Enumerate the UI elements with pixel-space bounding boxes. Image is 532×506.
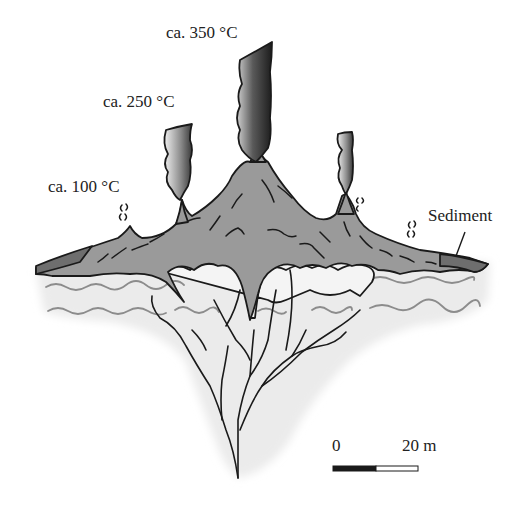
plume-250c xyxy=(164,124,192,200)
label-350c: ca. 350 °C xyxy=(166,23,237,42)
plume-350c xyxy=(237,42,272,162)
sediment-pointer xyxy=(456,232,465,256)
label-250c: ca. 250 °C xyxy=(103,92,174,111)
scale-bar-dark xyxy=(333,466,376,471)
scale-bar-light xyxy=(376,466,418,471)
scale-bar: 0 20 m xyxy=(332,436,436,471)
plume-right xyxy=(338,132,354,194)
scale-start-label: 0 xyxy=(332,436,341,455)
label-100c: ca. 100 °C xyxy=(48,177,119,196)
diagram-svg: ca. 350 °C ca. 250 °C ca. 100 °C Sedimen… xyxy=(0,0,532,506)
label-sediment: Sediment xyxy=(428,206,492,225)
scale-end-label: 20 m xyxy=(402,436,436,455)
vent-diagram: ca. 350 °C ca. 250 °C ca. 100 °C Sedimen… xyxy=(0,0,532,506)
